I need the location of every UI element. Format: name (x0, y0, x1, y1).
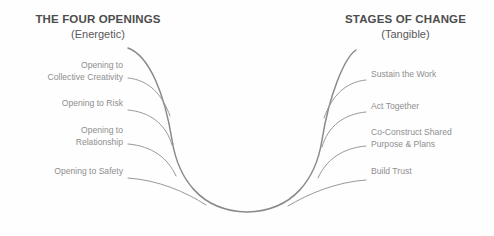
connector-right-4 (288, 180, 366, 206)
right-column-subtitle: (Tangible) (318, 28, 493, 42)
connector-left-4 (128, 178, 206, 205)
connector-left-1 (128, 78, 170, 116)
right-column-heading: STAGES OF CHANGE (Tangible) (318, 12, 493, 42)
left-item-label-1: Opening to Collective Creativity (3, 60, 123, 84)
left-column-subtitle: (Energetic) (8, 28, 188, 42)
left-column-heading: THE FOUR OPENINGS (Energetic) (8, 12, 188, 42)
diagram-canvas: THE FOUR OPENINGS (Energetic) STAGES OF … (0, 0, 494, 236)
right-column-title: STAGES OF CHANGE (318, 12, 493, 26)
left-column-title: THE FOUR OPENINGS (8, 12, 188, 26)
connector-right-1 (324, 80, 366, 118)
right-item-label-1: Sustain the Work (371, 69, 491, 81)
left-item-label-4: Opening to Safety (3, 166, 123, 178)
right-item-label-4: Build Trust (371, 166, 491, 178)
right-item-label-3: Co-Construct Shared Purpose & Plans (371, 127, 491, 151)
left-item-label-3: Opening to Relationship (3, 125, 123, 149)
connector-right-3 (318, 146, 366, 178)
main-u-curve (128, 48, 356, 212)
left-item-label-2: Opening to Risk (3, 98, 123, 110)
connector-right-2 (322, 112, 366, 147)
right-item-label-2: Act Together (371, 101, 491, 113)
connector-left-3 (128, 144, 176, 176)
connector-left-2 (128, 110, 172, 145)
